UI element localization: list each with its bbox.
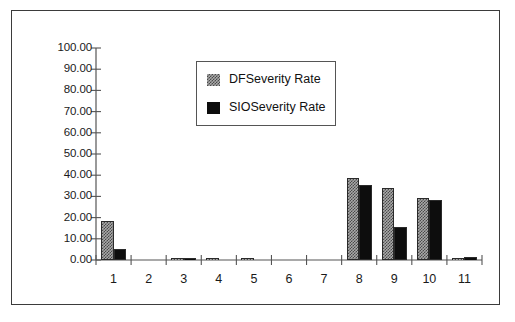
legend-entry-df: DFSeverity Rate: [207, 73, 321, 86]
bar-sioseverity-rate-cat-9: [394, 227, 407, 260]
bar-dfseverity-rate-cat-5: [241, 258, 254, 260]
x-axis-tick-label: 2: [129, 273, 169, 286]
plot-area: 0.0010.0020.0030.0040.0050.0060.0070.008…: [12, 11, 501, 306]
x-axis-tick-label: 8: [339, 273, 379, 286]
x-axis-tick-label: 4: [199, 273, 239, 286]
x-axis-tick-label: 7: [304, 273, 344, 286]
x-axis-tick-label: 11: [444, 273, 484, 286]
bar-sioseverity-rate-cat-11: [464, 257, 477, 260]
legend-label-sio: SIOSeverity Rate: [229, 101, 326, 114]
bar-sioseverity-rate-cat-10: [429, 200, 442, 260]
bar-sioseverity-rate-cat-3: [184, 258, 197, 260]
bar-dfseverity-rate-cat-3: [171, 258, 184, 260]
legend-swatch-df-icon: [207, 74, 220, 86]
bar-dfseverity-rate-cat-1: [101, 221, 114, 260]
x-axis-tick-label: 10: [409, 273, 449, 286]
legend-label-df: DFSeverity Rate: [229, 73, 321, 86]
legend-entry-sio: SIOSeverity Rate: [207, 101, 326, 114]
x-axis-tick-label: 6: [269, 273, 309, 286]
x-axis-tick-label: 9: [374, 273, 414, 286]
legend-swatch-sio-icon: [207, 102, 220, 114]
bar-dfseverity-rate-cat-10: [417, 198, 430, 260]
bar-dfseverity-rate-cat-9: [382, 188, 395, 261]
bar-dfseverity-rate-cat-11: [452, 258, 465, 260]
bar-dfseverity-rate-cat-4: [206, 258, 219, 260]
chart-legend: DFSeverity Rate SIOSeverity Rate: [196, 61, 336, 126]
x-axis-tick-label: 3: [164, 273, 204, 286]
x-axis-tick-label: 5: [234, 273, 274, 286]
bar-sioseverity-rate-cat-1: [114, 249, 127, 260]
x-axis-tick-label: 1: [94, 273, 134, 286]
bar-dfseverity-rate-cat-8: [347, 178, 360, 260]
chart-frame: 0.0010.0020.0030.0040.0050.0060.0070.008…: [11, 10, 500, 305]
bar-series-layer: [12, 11, 501, 306]
bar-sioseverity-rate-cat-8: [359, 185, 372, 260]
